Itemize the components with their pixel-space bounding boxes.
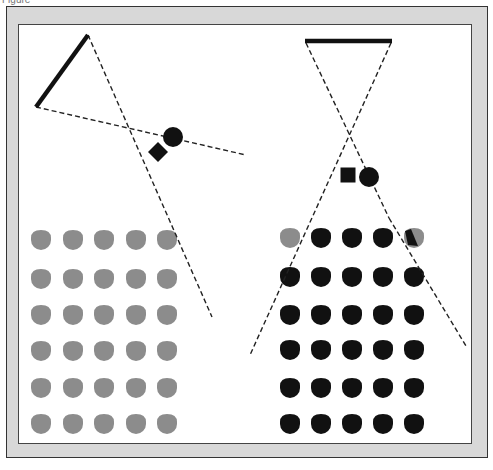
sight-line	[306, 43, 389, 218]
dot	[280, 340, 300, 360]
dot	[157, 378, 177, 398]
dot	[404, 378, 424, 398]
dot	[342, 378, 362, 398]
diamond-marker	[148, 142, 168, 162]
dot	[157, 305, 177, 325]
dot	[280, 228, 300, 248]
dot	[126, 269, 146, 289]
dot	[311, 340, 331, 360]
dot	[63, 378, 83, 398]
dot	[373, 305, 393, 325]
dot	[280, 414, 300, 434]
dot	[373, 414, 393, 434]
dot	[311, 228, 331, 248]
square-marker	[341, 168, 356, 183]
dot	[311, 378, 331, 398]
dot	[31, 378, 51, 398]
mirror-bar	[36, 35, 88, 107]
dot	[404, 414, 424, 434]
dot	[31, 414, 51, 434]
sight-line	[36, 107, 246, 155]
dot	[94, 230, 114, 250]
dot	[31, 341, 51, 361]
dot	[94, 378, 114, 398]
left-diagram	[31, 35, 246, 434]
dot	[157, 230, 177, 250]
dot	[63, 230, 83, 250]
dot	[342, 305, 362, 325]
dot	[126, 341, 146, 361]
dot	[31, 230, 51, 250]
dot	[126, 230, 146, 250]
dot	[126, 305, 146, 325]
dot	[342, 340, 362, 360]
dot	[94, 414, 114, 434]
dot	[311, 267, 331, 287]
sight-line	[389, 218, 466, 346]
dot	[94, 269, 114, 289]
dot	[342, 414, 362, 434]
dot	[157, 341, 177, 361]
dot	[126, 378, 146, 398]
right-diagram	[250, 41, 466, 434]
diagram-canvas	[0, 0, 493, 470]
dot	[373, 378, 393, 398]
dot	[404, 340, 424, 360]
dot	[63, 414, 83, 434]
dot	[342, 228, 362, 248]
dot	[63, 341, 83, 361]
dot	[373, 228, 393, 248]
dot	[63, 269, 83, 289]
dot	[311, 305, 331, 325]
dot	[404, 267, 424, 287]
dot	[280, 267, 300, 287]
dot	[63, 305, 83, 325]
dot	[94, 305, 114, 325]
dot	[157, 414, 177, 434]
circle-marker	[359, 167, 379, 187]
dot	[31, 269, 51, 289]
dot	[404, 305, 424, 325]
circle-marker	[163, 127, 183, 147]
dot	[126, 414, 146, 434]
dot	[342, 267, 362, 287]
dot	[373, 340, 393, 360]
dot	[31, 305, 51, 325]
dot	[311, 414, 331, 434]
dot	[373, 267, 393, 287]
dot	[280, 378, 300, 398]
dot	[94, 341, 114, 361]
dot	[157, 269, 177, 289]
dot	[280, 305, 300, 325]
